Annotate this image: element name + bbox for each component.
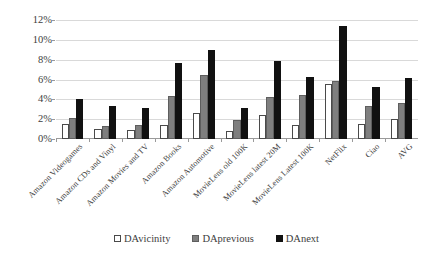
bar [274,61,281,139]
legend-label: DAvicinity [124,233,170,244]
bar [208,50,215,139]
bar [332,81,339,140]
bar [200,75,207,139]
bar [259,115,266,139]
bar-group [253,20,286,139]
bar [358,124,365,139]
legend-swatch-icon [276,235,283,242]
bar-group [188,20,221,139]
y-axis-tick-mark [52,20,55,21]
bar-group [155,20,188,139]
y-axis-tick-label: 12% [6,15,52,25]
bar [102,126,109,139]
bar [339,26,346,139]
y-axis-tick-mark [52,80,55,81]
legend-item[interactable]: DAnext [276,233,319,244]
bar [398,103,405,139]
y-axis-tick-mark [52,99,55,100]
bar [175,63,182,139]
bar [405,78,412,139]
x-axis-tick-label: Amazon Movies and TV [85,142,151,208]
bar-group [319,20,352,139]
legend-item[interactable]: DAprevious [192,233,253,244]
bar [365,106,372,139]
y-axis-tick-label: 4% [6,94,52,104]
x-axis-labels: Amazon VideogamesAmazon CDs and VinylAma… [56,140,418,224]
bar [292,125,299,139]
y-axis-tick-label: 8% [6,55,52,65]
bar [94,129,101,139]
bar [127,130,134,139]
bar [391,119,398,139]
bar [109,106,116,139]
legend-swatch-icon [192,235,199,242]
legend-item[interactable]: DAvicinity [114,233,170,244]
bar [160,125,167,139]
bar-groups [56,20,418,139]
legend-label: DAprevious [202,233,253,244]
x-axis-tick-label: MovieLens Latest 100K [250,142,315,207]
bar [76,99,83,139]
y-axis-tick-mark [52,60,55,61]
bar [168,96,175,139]
x-axis-tick-label: Amazon Videogames [27,142,85,200]
bar [306,77,313,139]
chart-legend: DAvicinityDApreviousDAnext [0,233,433,244]
bar-group [221,20,254,139]
bar-group [122,20,155,139]
bar-group [286,20,319,139]
bar [299,95,306,139]
bar [142,108,149,139]
y-axis-tick-mark [52,119,55,120]
bar [241,108,248,139]
x-axis-tick-label: AVG [395,142,414,161]
bar [62,124,69,139]
bar [266,97,273,139]
bar-chart: 0%2%4%6%8%10%12% Amazon VideogamesAmazon… [0,0,433,265]
y-axis: 0%2%4%6%8%10%12% [0,20,52,139]
bar-group [352,20,385,139]
bar-group [385,20,418,139]
y-axis-tick-mark [52,40,55,41]
bar [233,120,240,139]
y-axis-tick-label: 2% [6,114,52,124]
x-axis-tick-label: NetFlix [323,142,348,167]
bar-group [89,20,122,139]
y-axis-tick-mark [52,139,55,140]
x-axis-tick-label: MovieLens latest 20M [221,142,282,203]
bar-group [56,20,89,139]
bar [226,131,233,139]
bar [193,113,200,139]
y-axis-tick-label: 6% [6,75,52,85]
x-axis-tick-label: Amazon CDs and Vinyl [54,142,118,206]
y-axis-tick-label: 10% [6,35,52,45]
y-axis-tick-label: 0% [6,134,52,144]
x-axis-tick-label: Ciao [363,142,381,160]
bar [69,118,76,139]
bar [135,125,142,139]
legend-label: DAnext [286,233,319,244]
legend-swatch-icon [114,235,121,242]
bar [325,84,332,139]
bar [372,87,379,139]
